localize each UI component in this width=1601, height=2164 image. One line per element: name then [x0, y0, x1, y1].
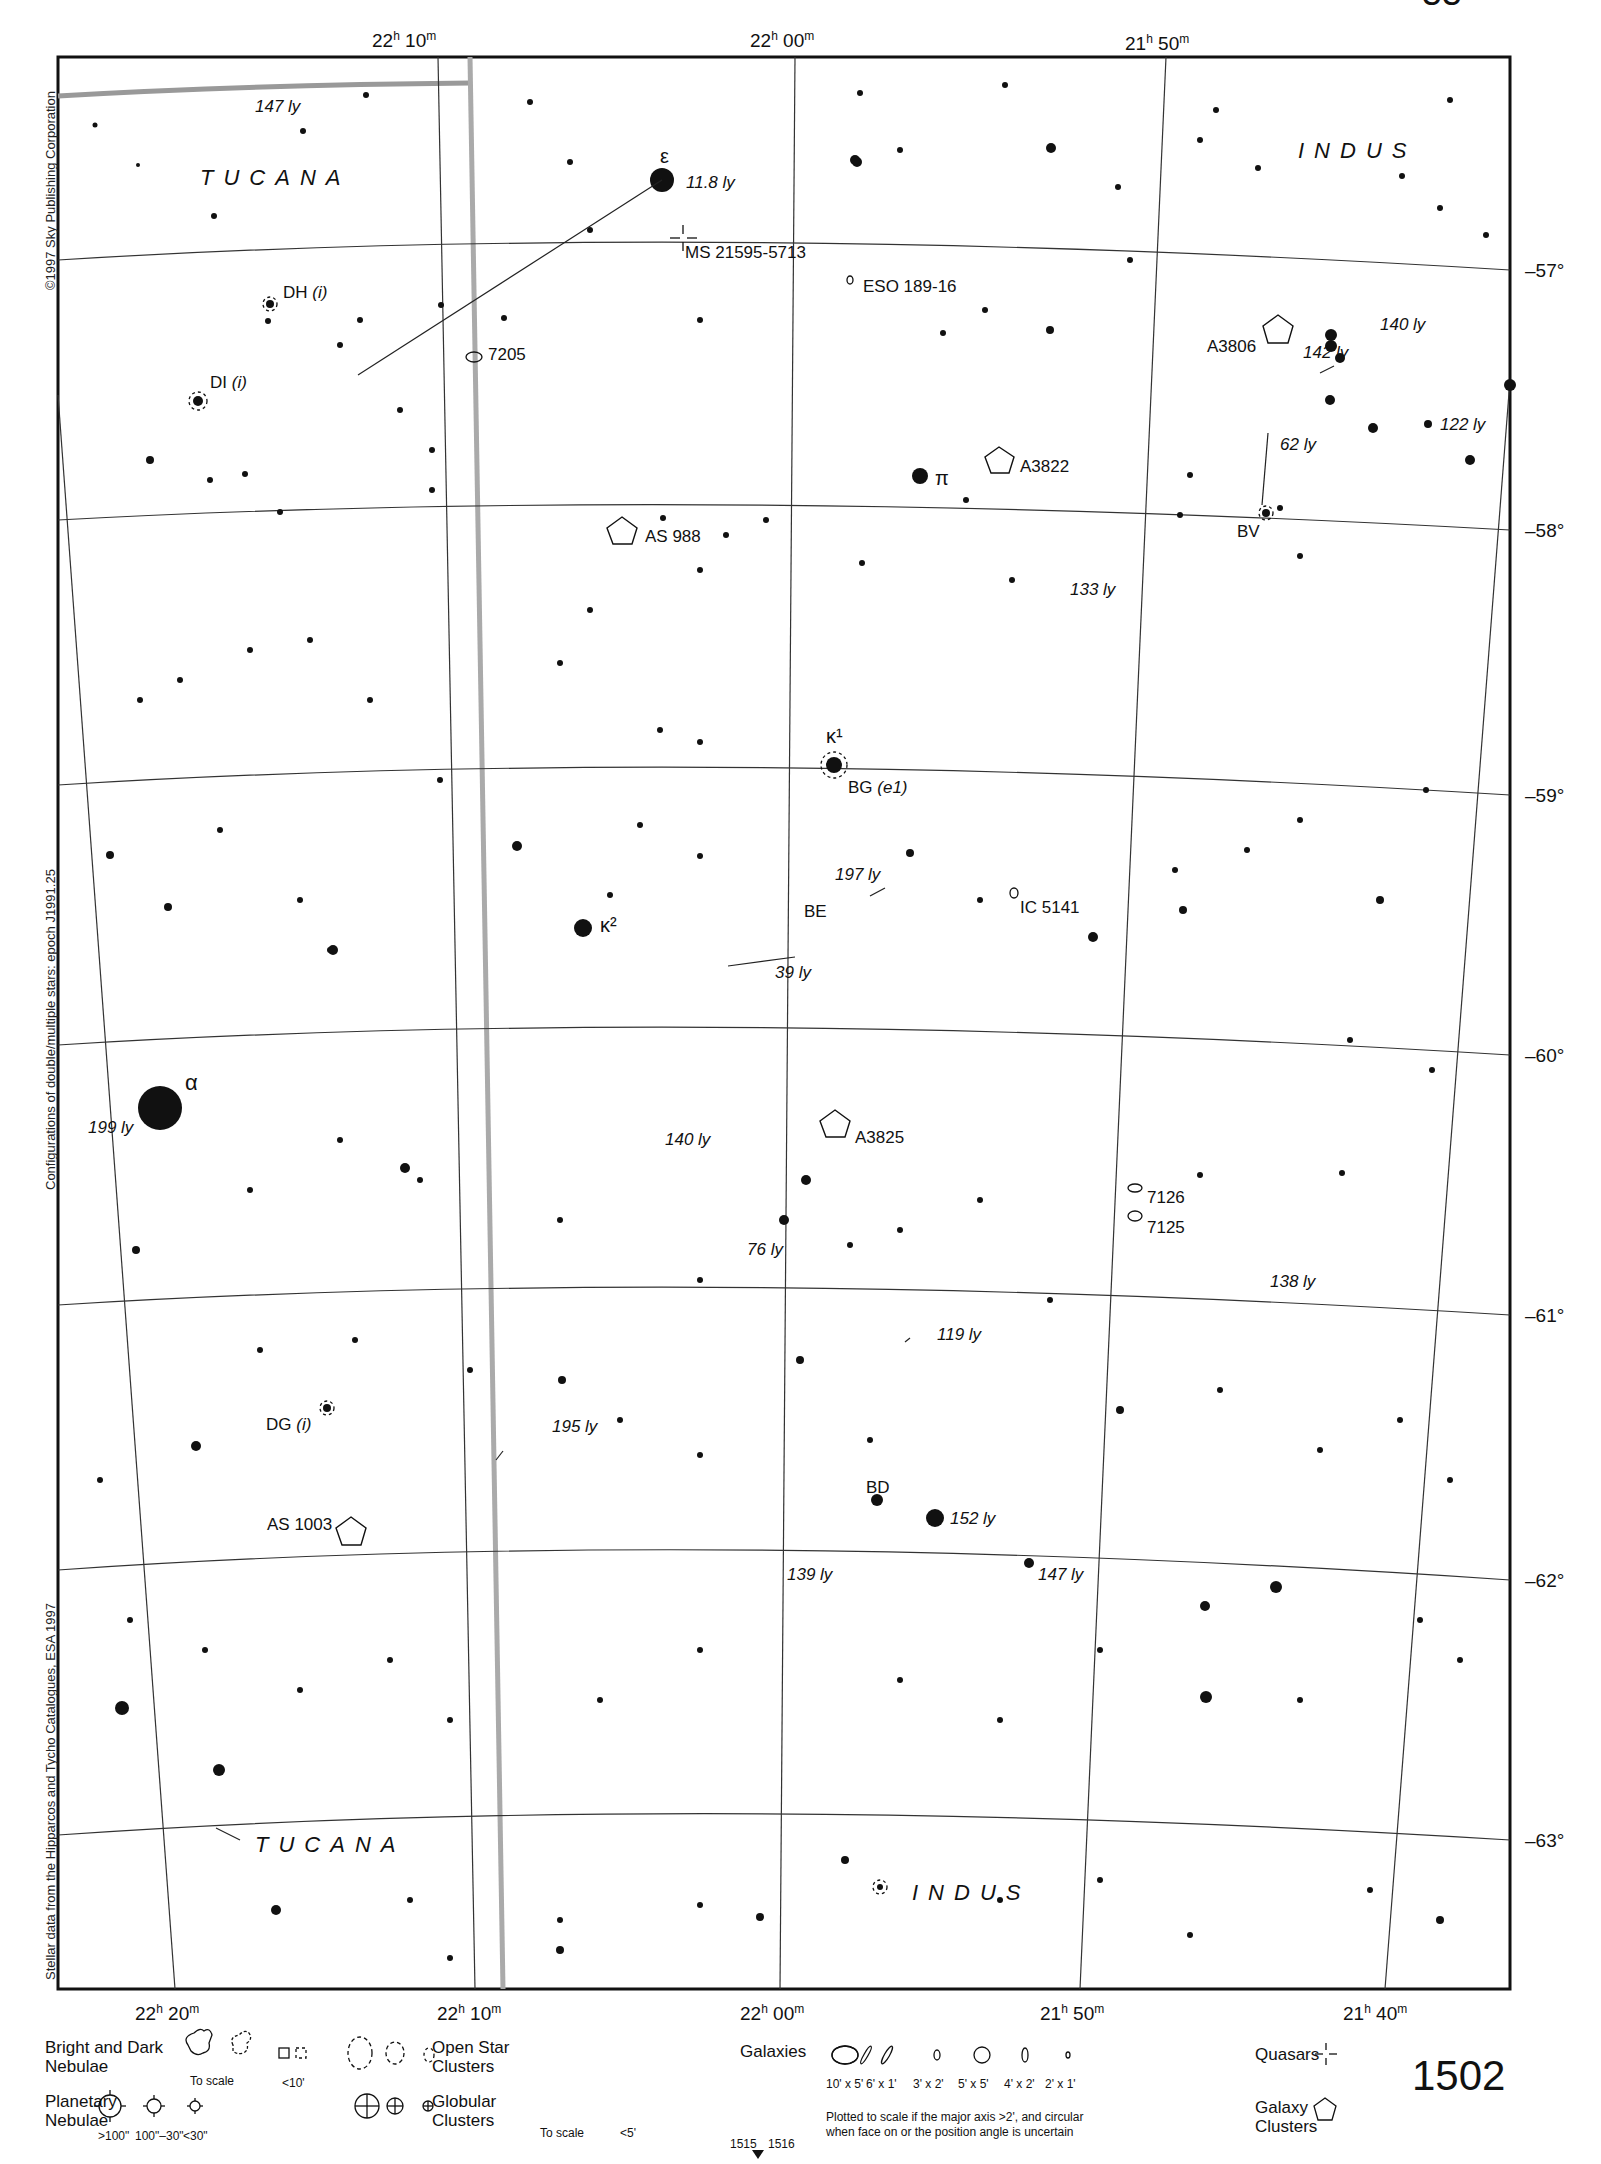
adjacent-chart-arrow-icon[interactable] — [752, 2150, 764, 2159]
legend-nebulae: Bright and Dark Nebulae — [45, 2038, 163, 2076]
deep-sky-labels: MS 21595-5713 ESO 189-16 7205 A3806 A382… — [267, 243, 1256, 1534]
galaxy-label: 7205 — [488, 345, 526, 364]
distance-label: 139 ly — [787, 1565, 834, 1584]
constellation-names: TUCANA INDUS TUCANA INDUS — [200, 138, 1416, 1905]
star-label: κ¹ — [826, 725, 843, 747]
open-cluster-large-icon — [348, 2037, 372, 2069]
distance-label: 140 ly — [1380, 315, 1427, 334]
constellation-label: INDUS — [1298, 138, 1416, 163]
proper-motion-vectors — [216, 180, 1334, 1840]
legend-galaxy-size: 10' x 5' — [826, 2075, 863, 2094]
variable-star-markers — [189, 297, 1273, 1894]
galaxy-label: ESO 189-16 — [863, 277, 957, 296]
galaxy-cluster-label: A3806 — [1207, 337, 1256, 356]
variable-star-label: DH (i) — [283, 283, 327, 302]
stars — [115, 143, 1516, 1915]
distance-label: 152 ly — [950, 1509, 997, 1528]
star-label: ε — [660, 145, 669, 167]
legend-planetary-size: 100"–30" — [135, 2127, 184, 2146]
variable-star-label: BD — [866, 1478, 890, 1497]
dec-axis: –57° –58° –59° –60° –61° –62° –63° — [1525, 260, 1564, 1851]
galaxy-cluster-label: AS 988 — [645, 527, 701, 546]
open-cluster-medium-icon — [386, 2042, 404, 2064]
constellation-label: TUCANA — [200, 165, 350, 190]
svg-text:–58°: –58° — [1525, 520, 1564, 541]
svg-text:21h 50m: 21h 50m — [1040, 2002, 1104, 2024]
dec-grid — [58, 242, 1510, 1840]
bright-nebula-icon — [186, 2029, 212, 2054]
legend-globular-small: <5' — [620, 2124, 636, 2143]
ra-axis-bottom: 22h 20m 22h 10m 22h 00m 21h 50m 21h 40m — [135, 2002, 1407, 2024]
legend-galaxy-size: 5' x 5' — [958, 2075, 989, 2094]
svg-text:22h 10m: 22h 10m — [437, 2002, 501, 2024]
nebula-small-icon — [279, 2048, 289, 2058]
distance-label: 39 ly — [775, 963, 812, 982]
distance-label: 122 ly — [1440, 415, 1487, 434]
page-number-top: 55 — [1422, 0, 1462, 14]
quasar-label: MS 21595-5713 — [685, 243, 806, 262]
legend-galaxy-size: 3' x 2' — [913, 2075, 944, 2094]
ra-axis-top: 22h 10m 22h 00m 21h 50m — [372, 29, 1189, 54]
constellation-label: INDUS — [912, 1880, 1030, 1905]
legend-globular-to-scale: To scale — [540, 2124, 584, 2143]
chart-number: 1502 — [1412, 2052, 1505, 2100]
epoch-note: Configurations of double/multiple stars:… — [43, 869, 58, 1190]
svg-text:22h 10m: 22h 10m — [372, 29, 436, 51]
galaxy-label: 7125 — [1147, 1218, 1185, 1237]
galaxy-label: 7126 — [1147, 1188, 1185, 1207]
star-label: α — [185, 1070, 198, 1095]
data-source-note: Stellar data from the Hipparcos and Tych… — [43, 1603, 58, 1980]
distance-label: 147 ly — [255, 97, 302, 116]
distance-label: 147 ly — [1038, 1565, 1085, 1584]
galaxy-cluster-label: A3822 — [1020, 457, 1069, 476]
svg-text:–57°: –57° — [1525, 260, 1564, 281]
chart-frame — [58, 57, 1510, 1989]
svg-text:22h 00m: 22h 00m — [750, 29, 814, 51]
svg-text:–62°: –62° — [1525, 1570, 1564, 1591]
svg-text:–61°: –61° — [1525, 1305, 1564, 1326]
star-label: κ² — [600, 914, 617, 936]
legend-open-clusters: Open Star Clusters — [432, 2038, 510, 2076]
variable-star-label: BE — [804, 902, 827, 921]
star-pi — [912, 468, 928, 484]
constellation-boundary — [58, 83, 470, 96]
svg-text:21h 50m: 21h 50m — [1125, 32, 1189, 54]
distance-label: 195 ly — [552, 1417, 599, 1436]
variable-star-label: DG (i) — [266, 1415, 311, 1434]
variable-star-label: BV — [1237, 522, 1260, 541]
distance-label: 138 ly — [1270, 1272, 1317, 1291]
variable-star-labels: DH (i) DI (i) BV BG (e1) BE DG (i) BD — [210, 283, 1260, 1497]
legend-nebulae-to-scale: To scale — [190, 2072, 234, 2091]
copyright-note: ©1997 Sky Publishing Corporation — [43, 91, 58, 290]
legend-galaxy-size: 6' x 1' — [866, 2075, 897, 2094]
dark-nebula-icon — [232, 2031, 251, 2053]
galaxy-cluster-label: AS 1003 — [267, 1515, 332, 1534]
variable-star-label: BG (e1) — [848, 778, 908, 797]
galaxy-symbols — [466, 276, 1142, 1221]
star-chart: TUCANA INDUS TUCANA INDUS ε π κ¹ κ² α 14… — [0, 0, 1601, 2164]
adjacent-chart-right[interactable]: 1516 — [768, 2135, 795, 2154]
ra-grid — [58, 57, 1510, 1989]
star-alpha — [138, 1086, 182, 1130]
distance-label: 199 ly — [88, 1118, 135, 1137]
galaxy-legend-row — [820, 2040, 1180, 2070]
legend-nebulae-small: <10' — [282, 2074, 305, 2093]
planetary-small-icon — [190, 2101, 200, 2111]
legend-planetary-size: >100" — [98, 2127, 129, 2146]
legend-galaxy-size: 2' x 1' — [1045, 2075, 1076, 2094]
svg-text:21h 40m: 21h 40m — [1343, 2002, 1407, 2024]
distance-labels: 147 ly 11.8 ly 140 ly 142 ly 122 ly 62 l… — [88, 97, 1487, 1584]
legend-planetary: Planetary Nebulae — [45, 2092, 117, 2130]
distance-label: 133 ly — [1070, 580, 1117, 599]
star-kappa2 — [574, 919, 592, 937]
legend-galaxy-size: 4' x 2' — [1004, 2075, 1035, 2094]
galaxy-label: IC 5141 — [1020, 898, 1080, 917]
constellation-label: TUCANA — [255, 1832, 405, 1857]
svg-text:–59°: –59° — [1525, 785, 1564, 806]
legend-galaxies: Galaxies — [740, 2042, 806, 2061]
distance-label: 119 ly — [937, 1325, 983, 1344]
distance-label: 11.8 ly — [686, 173, 736, 192]
legend-globular: Globular Clusters — [432, 2092, 496, 2130]
dark-nebula-small-icon — [296, 2048, 306, 2058]
svg-text:22h 20m: 22h 20m — [135, 2002, 199, 2024]
